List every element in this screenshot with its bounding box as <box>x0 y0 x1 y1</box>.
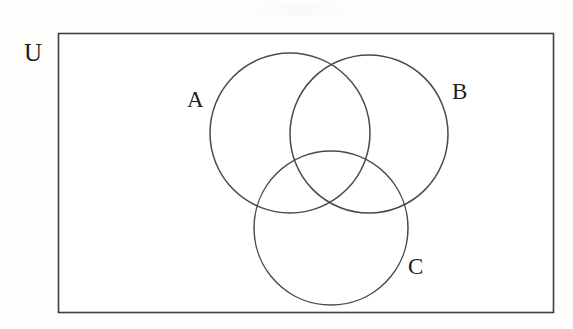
universal-set-label: U <box>24 40 42 65</box>
venn-diagram-page: U A B C <box>0 0 573 329</box>
set-a-label: A <box>187 88 204 111</box>
venn-diagram-canvas <box>0 0 573 329</box>
universal-set-rectangle <box>59 34 554 313</box>
set-c-label: C <box>408 255 423 278</box>
set-b-label: B <box>452 80 467 103</box>
